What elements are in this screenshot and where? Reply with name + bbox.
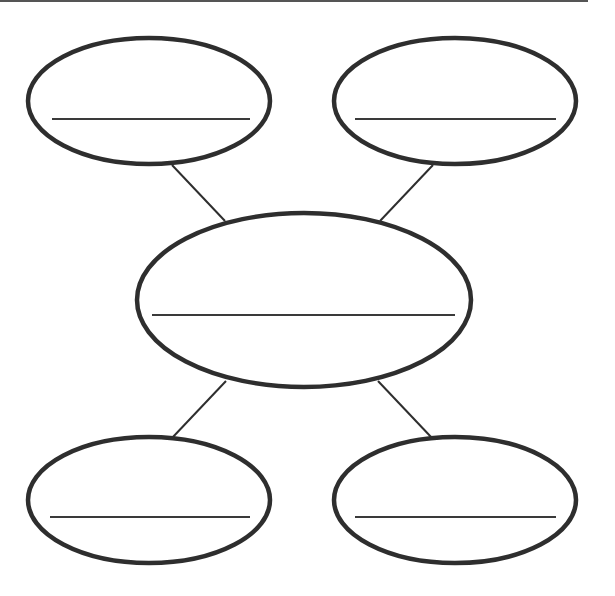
node-ellipse xyxy=(334,437,576,563)
nodes xyxy=(28,38,576,563)
node-center xyxy=(137,213,471,387)
node-ellipse xyxy=(28,38,270,164)
concept-map xyxy=(0,0,615,596)
node-ellipse xyxy=(137,213,471,387)
node-bottom-left xyxy=(28,437,270,563)
node-top-left xyxy=(28,38,270,164)
node-ellipse xyxy=(334,38,576,164)
connector-bottom-right-to-center xyxy=(378,381,432,438)
connector-top-right-to-center xyxy=(380,165,433,221)
connector-top-left-to-center xyxy=(172,165,225,221)
node-bottom-right xyxy=(334,437,576,563)
node-top-right xyxy=(334,38,576,164)
node-ellipse xyxy=(28,437,270,563)
connector-bottom-left-to-center xyxy=(172,381,226,438)
